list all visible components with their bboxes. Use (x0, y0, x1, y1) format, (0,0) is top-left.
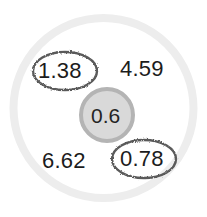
value-label-upper-right: 4.59 (120, 58, 164, 80)
value-label-upper-left: 1.38 (38, 60, 82, 82)
center-circle-label: 0.6 (91, 105, 120, 126)
value-label-lower-right: 0.78 (120, 148, 164, 170)
diagram-canvas: 1.38 4.59 6.62 0.78 0.6 (0, 0, 207, 217)
value-label-lower-left: 6.62 (42, 150, 86, 172)
